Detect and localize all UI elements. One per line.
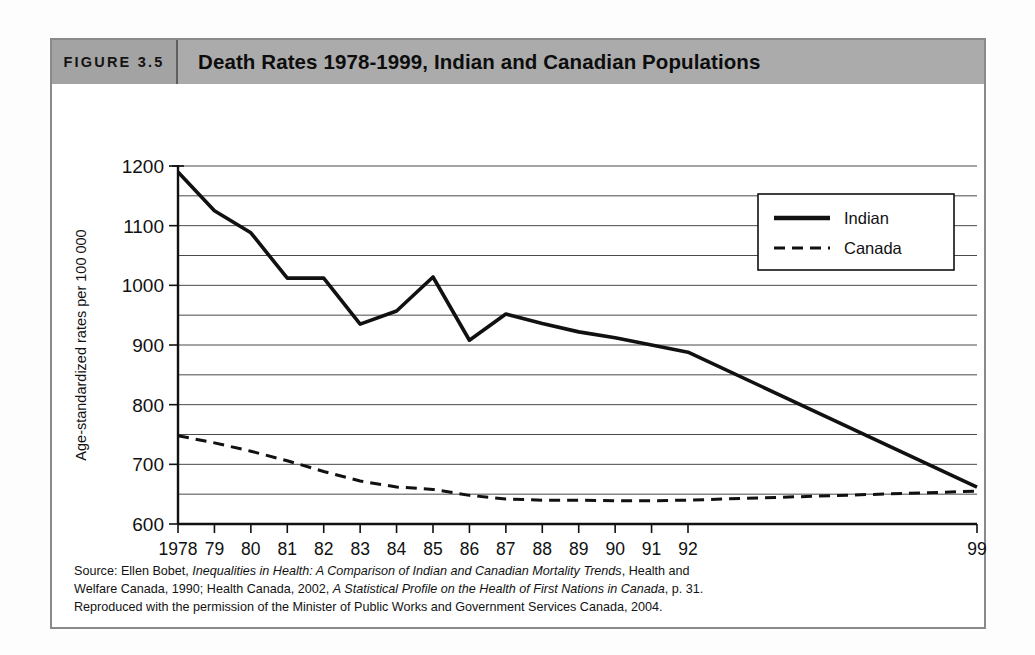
figure-header-bar: FIGURE 3.5 Death Rates 1978-1999, Indian… [52,40,984,84]
source-text: , p. 31. [665,582,704,596]
source-note: Source: Ellen Bobet, Inequalities in Hea… [52,555,988,627]
legend-label-indian: Indian [844,209,889,227]
y-tick-label: 1100 [123,216,164,237]
source-text: Welfare Canada, 1990; Health Canada, 200… [74,582,333,596]
y-tick-label: 1200 [122,156,164,177]
legend-label-canada: Canada [844,239,903,257]
legend-box [758,194,954,270]
source-title-italic: Inequalities in Health: A Comparison of … [192,564,621,578]
y-axis-title: Age-standardized rates per 100 000 [73,229,89,460]
source-text: , Health and [622,564,690,578]
line-chart: 6007008009001000110012001978798081828384… [52,84,988,568]
series-line-canada [178,436,977,501]
y-tick-label: 1000 [122,275,164,296]
figure-number-cell: FIGURE 3.5 [52,40,178,84]
source-line-3: Reproduced with the permission of the Mi… [74,599,966,617]
chart-area: 6007008009001000110012001978798081828384… [52,84,988,568]
figure-title-label: Death Rates 1978-1999, Indian and Canadi… [198,50,760,74]
y-tick-label: 600 [132,514,164,535]
y-tick-label: 700 [132,454,164,475]
source-title-italic: A Statistical Profile on the Health of F… [333,582,665,596]
y-tick-label: 800 [132,395,164,416]
figure-number-label: FIGURE 3.5 [64,54,165,70]
y-tick-label: 900 [132,335,164,356]
figure-container: FIGURE 3.5 Death Rates 1978-1999, Indian… [50,38,986,629]
source-line-1: Source: Ellen Bobet, Inequalities in Hea… [74,563,966,581]
source-text: Source: Ellen Bobet, [74,564,192,578]
figure-title-cell: Death Rates 1978-1999, Indian and Canadi… [178,40,984,84]
source-line-2: Welfare Canada, 1990; Health Canada, 200… [74,581,966,599]
